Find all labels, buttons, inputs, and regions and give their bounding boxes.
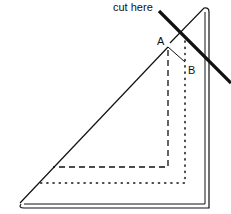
point-a-label: A — [157, 35, 165, 47]
hypotenuse-line — [20, 47, 168, 203]
outer-fold-edge — [20, 8, 209, 208]
inner-fold-edge — [24, 12, 205, 204]
a-to-b-line — [168, 47, 185, 62]
point-b-label: B — [188, 64, 195, 76]
cut-here-label: cut here — [113, 1, 153, 13]
folding-diagram: cut here A B — [0, 0, 231, 214]
